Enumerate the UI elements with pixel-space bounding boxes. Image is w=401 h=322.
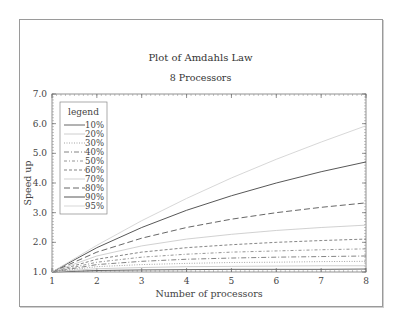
y-tick-label: 5.0 xyxy=(33,148,48,158)
y-tick-label: 1.0 xyxy=(33,267,48,277)
legend-title: legend xyxy=(68,107,99,117)
x-tick-label: 8 xyxy=(363,276,369,286)
plot-area: 123456781.02.03.04.05.06.07.0Number of p… xyxy=(0,0,401,322)
y-tick-label: 3.0 xyxy=(33,208,48,218)
x-tick-label: 1 xyxy=(49,276,55,286)
x-axis-label: Number of processors xyxy=(155,288,262,299)
series-line-70pct xyxy=(52,225,366,272)
y-axis-label: Speed up xyxy=(22,160,33,205)
x-tick-label: 6 xyxy=(273,276,279,286)
y-tick-label: 7.0 xyxy=(33,89,48,99)
x-tick-label: 4 xyxy=(184,276,190,286)
x-tick-label: 5 xyxy=(229,276,235,286)
y-tick-label: 6.0 xyxy=(33,119,48,129)
legend-entry: 95% xyxy=(85,201,104,211)
y-tick-label: 2.0 xyxy=(33,237,48,247)
y-tick-label: 4.0 xyxy=(33,178,48,188)
x-tick-label: 2 xyxy=(94,276,100,286)
x-tick-label: 7 xyxy=(318,276,324,286)
x-tick-label: 3 xyxy=(139,276,145,286)
